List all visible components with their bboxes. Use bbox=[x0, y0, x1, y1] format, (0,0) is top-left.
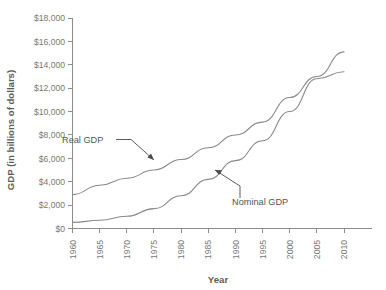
x-tick-label: 1990 bbox=[231, 240, 241, 259]
real-gdp-annotation: Real GDP bbox=[62, 135, 154, 160]
real-gdp-line bbox=[73, 52, 345, 195]
x-axis-tick-labels: 1960196519701975198019851990199520002005… bbox=[68, 240, 350, 259]
x-axis-title: Year bbox=[208, 274, 229, 285]
y-tick-label: $14,000 bbox=[34, 60, 65, 70]
y-axis-title: GDP (in billions of dollars) bbox=[5, 70, 16, 190]
x-tick-label: 1975 bbox=[149, 240, 159, 259]
y-tick-label: $10,000 bbox=[34, 107, 65, 117]
nominal-gdp-label: Nominal GDP bbox=[232, 197, 288, 207]
y-tick-label: $2,000 bbox=[39, 200, 66, 210]
x-tick-label: 1960 bbox=[68, 240, 78, 259]
nominal-gdp-annotation: Nominal GDP bbox=[215, 170, 288, 207]
x-axis-tick-marks bbox=[73, 229, 345, 234]
y-tick-label: $16,000 bbox=[34, 37, 65, 47]
x-tick-label: 1985 bbox=[203, 240, 213, 259]
y-axis-tick-marks bbox=[68, 18, 73, 229]
y-tick-label: $12,000 bbox=[34, 83, 65, 93]
x-tick-label: 1995 bbox=[258, 240, 268, 259]
y-axis-tick-labels: $0$2,000$4,000$6,000$8,000$10,000$12,000… bbox=[34, 13, 65, 234]
x-tick-label: 1980 bbox=[176, 240, 186, 259]
x-tick-label: 2000 bbox=[285, 240, 295, 259]
x-tick-label: 2010 bbox=[339, 240, 349, 259]
chart-canvas: $0$2,000$4,000$6,000$8,000$10,000$12,000… bbox=[0, 0, 386, 290]
y-tick-label: $18,000 bbox=[34, 13, 65, 23]
x-tick-label: 1965 bbox=[95, 240, 105, 259]
gdp-line-chart: $0$2,000$4,000$6,000$8,000$10,000$12,000… bbox=[0, 0, 386, 290]
y-tick-label: $0 bbox=[55, 224, 65, 234]
real-gdp-label: Real GDP bbox=[62, 135, 103, 145]
x-tick-label: 2005 bbox=[312, 240, 322, 259]
y-tick-label: $6,000 bbox=[39, 154, 66, 164]
nominal-gdp-line bbox=[73, 72, 345, 223]
x-tick-label: 1970 bbox=[122, 240, 132, 259]
y-tick-label: $4,000 bbox=[39, 177, 66, 187]
